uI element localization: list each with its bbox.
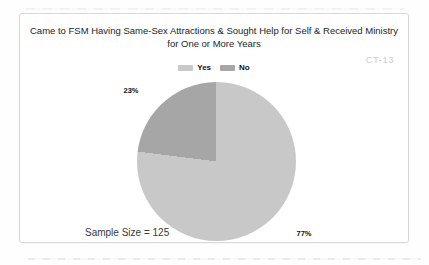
top-artifact-line bbox=[26, 8, 404, 10]
chart-legend: Yes No bbox=[20, 63, 408, 72]
legend-swatch-yes bbox=[178, 65, 193, 71]
legend-label-yes: Yes bbox=[197, 63, 211, 72]
chart-title: Came to FSM Having Same-Sex Attractions … bbox=[20, 25, 408, 50]
legend-item-no: No bbox=[220, 63, 250, 72]
sample-size-label: Sample Size = 125 bbox=[85, 227, 169, 238]
pie-label-no: 23% bbox=[116, 86, 146, 95]
report-page: Came to FSM Having Same-Sex Attractions … bbox=[0, 0, 429, 265]
legend-swatch-no bbox=[220, 65, 235, 71]
legend-item-yes: Yes bbox=[178, 63, 211, 72]
bottom-artifact-line bbox=[28, 258, 421, 260]
chart-title-line1: Came to FSM Having Same-Sex Attractions … bbox=[30, 25, 398, 36]
pie-label-yes: 77% bbox=[289, 229, 319, 238]
legend-label-no: No bbox=[239, 63, 250, 72]
chart-card: Came to FSM Having Same-Sex Attractions … bbox=[19, 13, 409, 243]
pie-chart bbox=[137, 82, 296, 241]
chart-title-line2: for One or More Years bbox=[167, 38, 260, 49]
